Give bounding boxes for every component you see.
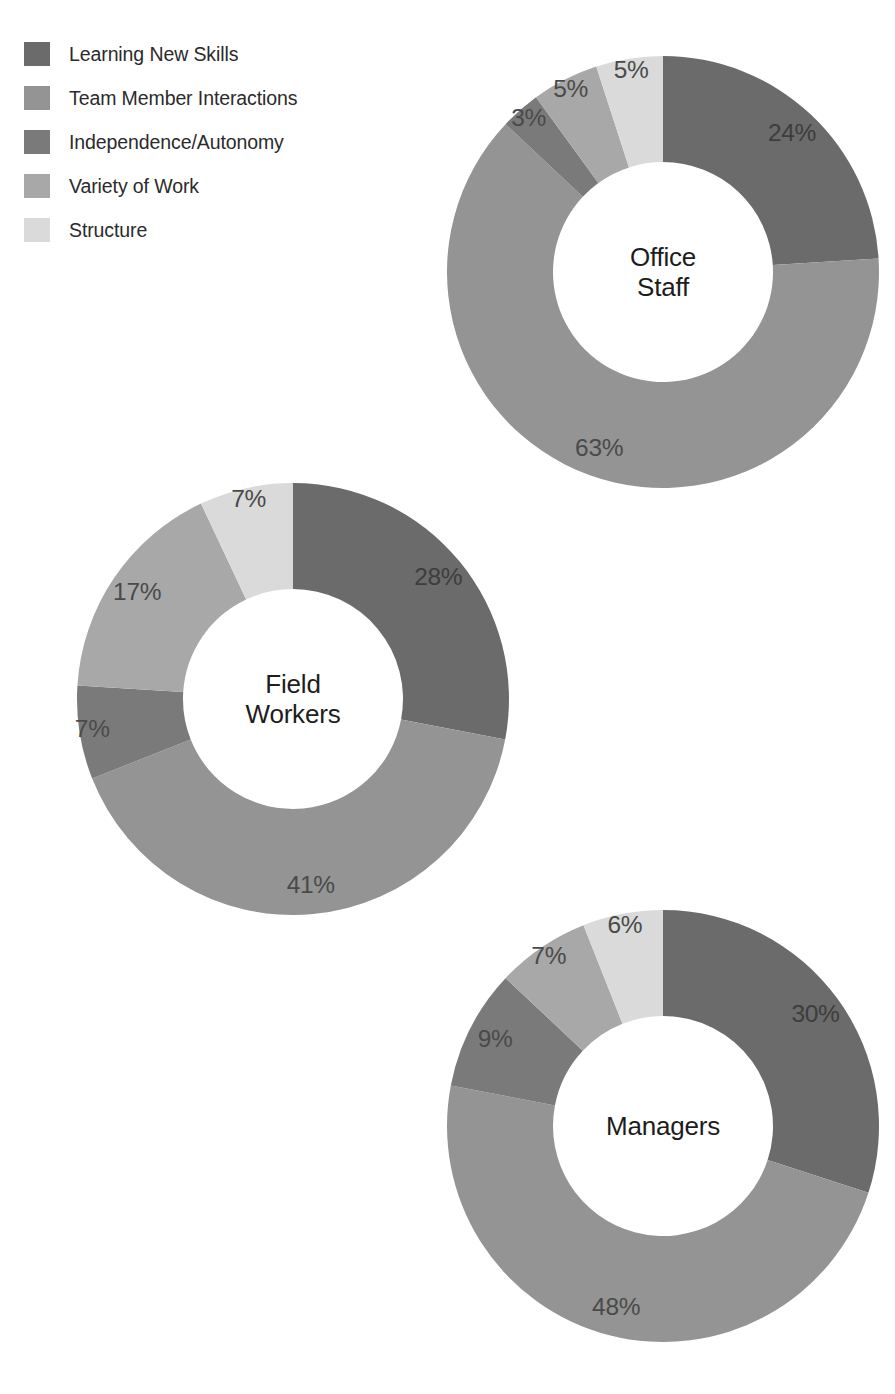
slice-value-label: 6%	[608, 911, 643, 938]
slice-value-label: 17%	[113, 578, 161, 605]
slice-value-label: 28%	[414, 563, 462, 590]
chart-legend: Learning New Skills Team Member Interact…	[24, 32, 384, 252]
slice-value-label: 7%	[231, 485, 266, 512]
legend-swatch-team-member-interactions	[24, 86, 50, 110]
legend-swatch-structure	[24, 218, 50, 242]
donut-svg-managers: 30%48%9%7%6%	[413, 876, 895, 1376]
donut-slice-learning-new-skills[interactable]	[663, 910, 879, 1193]
slice-value-label: 5%	[553, 75, 588, 102]
legend-label: Structure	[69, 219, 147, 242]
donut-chart-office-staff: 24%63%3%5%5%Office Staff	[413, 22, 895, 522]
donut-slice-learning-new-skills[interactable]	[293, 483, 509, 739]
legend-item: Structure	[24, 208, 384, 252]
legend-item: Team Member Interactions	[24, 76, 384, 120]
legend-label: Independence/Autonomy	[69, 131, 284, 154]
slice-value-label: 63%	[575, 434, 623, 461]
slice-value-label: 30%	[791, 1000, 839, 1027]
legend-item: Learning New Skills	[24, 32, 384, 76]
legend-label: Team Member Interactions	[69, 87, 297, 110]
donut-svg-field-workers: 28%41%7%17%7%	[43, 449, 543, 949]
slice-value-label: 7%	[75, 715, 110, 742]
legend-swatch-independence-autonomy	[24, 130, 50, 154]
legend-swatch-variety-of-work	[24, 174, 50, 198]
legend-label: Learning New Skills	[69, 43, 238, 66]
slice-value-label: 3%	[511, 104, 546, 131]
slice-value-label: 48%	[592, 1293, 640, 1320]
slice-value-label: 9%	[478, 1025, 513, 1052]
donut-svg-office-staff: 24%63%3%5%5%	[413, 22, 895, 522]
legend-item: Variety of Work	[24, 164, 384, 208]
donut-chart-managers: 30%48%9%7%6%Managers	[413, 876, 895, 1376]
slice-value-label: 41%	[287, 871, 335, 898]
legend-swatch-learning-new-skills	[24, 42, 50, 66]
legend-item: Independence/Autonomy	[24, 120, 384, 164]
donut-slice-learning-new-skills[interactable]	[663, 56, 879, 265]
donut-chart-field-workers: 28%41%7%17%7%Field Workers	[43, 449, 543, 949]
slice-value-label: 5%	[614, 56, 649, 83]
slice-value-label: 24%	[768, 119, 816, 146]
legend-label: Variety of Work	[69, 175, 199, 198]
slice-value-label: 7%	[531, 942, 566, 969]
